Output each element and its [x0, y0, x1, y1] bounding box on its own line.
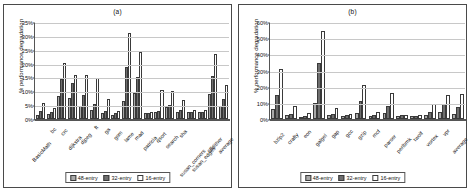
y-tick-label: 15% — [22, 75, 33, 81]
y-tick-label: 0% — [260, 117, 268, 123]
bar — [362, 85, 366, 119]
y-tick-label: 5% — [25, 103, 33, 109]
bar — [171, 91, 174, 119]
gridline — [35, 65, 229, 66]
y-tick-label: 0% — [25, 117, 33, 123]
legend-label: 48-entry — [313, 175, 333, 181]
x-label-cell: galgel — [312, 119, 326, 171]
bar — [193, 110, 196, 119]
bar — [225, 85, 228, 119]
chart-b-legend: 48-entry32-entry16-entry — [300, 172, 405, 183]
x-label-cell: qsort — [154, 119, 165, 171]
bar — [321, 31, 325, 119]
bar — [107, 99, 110, 119]
x-label-cell: susan_edges — [197, 119, 208, 171]
chart-b-title: (b) — [239, 8, 466, 15]
legend-item: 32-entry — [339, 175, 367, 181]
y-tickmark — [268, 71, 270, 72]
x-label-cell: gzip — [354, 119, 368, 171]
x-label-cell: ft — [89, 119, 100, 171]
bar — [446, 95, 450, 119]
bar — [96, 78, 99, 119]
y-tick-label: 50% — [257, 36, 268, 42]
legend-item: 32-entry — [104, 175, 132, 181]
x-label-cell: BasicMath — [35, 119, 46, 171]
y-tickmark — [33, 50, 35, 51]
bar — [376, 112, 380, 119]
x-label-cell: bzip2 — [270, 119, 284, 171]
x-tick-label: gap — [329, 129, 340, 140]
x-label-cell: eon — [298, 119, 312, 171]
legend-item: 16-entry — [372, 175, 400, 181]
chart-a-x-axis-labels: BasicMathbccrcdijkstradjpegftgagsmlamema… — [35, 119, 229, 171]
y-tick-label: 25% — [22, 48, 33, 54]
x-tick-label: mcf — [371, 128, 381, 138]
x-tick-label: gcc — [344, 128, 354, 138]
y-tick-label: 30% — [257, 69, 268, 75]
bar — [293, 106, 297, 119]
x-tick-label: average — [217, 136, 235, 154]
legend-item: 16-entry — [137, 175, 165, 181]
gridline — [35, 120, 229, 121]
y-tickmark — [268, 55, 270, 56]
x-label-cell: gap — [326, 119, 340, 171]
legend-swatch-icon — [137, 175, 143, 181]
chart-panel-a: (a) % performance degradation BasicMathb… — [0, 0, 235, 191]
x-label-cell: vortex — [423, 119, 437, 171]
y-tick-label: 35% — [22, 20, 33, 26]
y-tickmark — [33, 120, 35, 121]
x-label-cell: perlbmk — [395, 119, 409, 171]
y-tickmark — [268, 103, 270, 104]
bar — [279, 69, 283, 119]
y-tick-label: 40% — [257, 52, 268, 58]
gridline — [270, 88, 465, 89]
chart-a-title: (a) — [4, 8, 231, 15]
gridline — [35, 92, 229, 93]
x-tick-label: gzip — [357, 129, 368, 140]
x-label-cell: vpr — [437, 119, 451, 171]
gridline — [270, 55, 465, 56]
bar — [42, 103, 45, 119]
x-label-cell: djpeg — [78, 119, 89, 171]
bar — [390, 93, 394, 119]
y-tickmark — [33, 23, 35, 24]
x-tick-label: eon — [302, 129, 313, 140]
gridline — [270, 72, 465, 73]
y-tickmark — [33, 92, 35, 93]
x-tick-label: average — [451, 136, 469, 154]
bar — [117, 111, 120, 119]
chart-b-x-axis-labels: bzip2craftyeongalgelgapgccgzipmcfparserp… — [270, 119, 465, 171]
x-label-cell: twolf — [409, 119, 423, 171]
bar — [182, 100, 185, 119]
bar — [150, 112, 153, 119]
chart-a-plot-area: BasicMathbccrcdijkstradjpegftgagsmlamema… — [34, 23, 229, 120]
x-label-cell: tiffdither — [208, 119, 219, 171]
x-label-cell: average — [451, 119, 465, 171]
y-tickmark — [33, 106, 35, 107]
chart-a-frame: (a) % performance degradation BasicMathb… — [3, 4, 232, 188]
y-tickmark — [268, 120, 270, 121]
y-tickmark — [33, 64, 35, 65]
chart-a-legend: 48-entry32-entry16-entry — [65, 172, 170, 183]
y-tickmark — [268, 23, 270, 24]
legend-label: 16-entry — [380, 175, 400, 181]
bar — [139, 52, 142, 119]
legend-swatch-icon — [305, 175, 311, 181]
bar — [204, 110, 207, 119]
chart-panel-b: (b) % performance degradation bzip2craft… — [235, 0, 470, 191]
legend-label: 32-entry — [347, 175, 367, 181]
x-label-cell: crc — [57, 119, 68, 171]
x-label-cell: gsm — [110, 119, 121, 171]
x-label-cell: search — [164, 119, 175, 171]
gridline — [35, 78, 229, 79]
x-tick-label: ft — [93, 124, 99, 130]
y-tickmark — [268, 39, 270, 40]
gridline — [35, 37, 229, 38]
legend-swatch-icon — [104, 175, 110, 181]
legend-swatch-icon — [372, 175, 378, 181]
x-label-cell: parser — [381, 119, 395, 171]
legend-item: 48-entry — [70, 175, 98, 181]
legend-swatch-icon — [339, 175, 345, 181]
gridline — [35, 51, 229, 52]
gridline — [270, 23, 465, 24]
